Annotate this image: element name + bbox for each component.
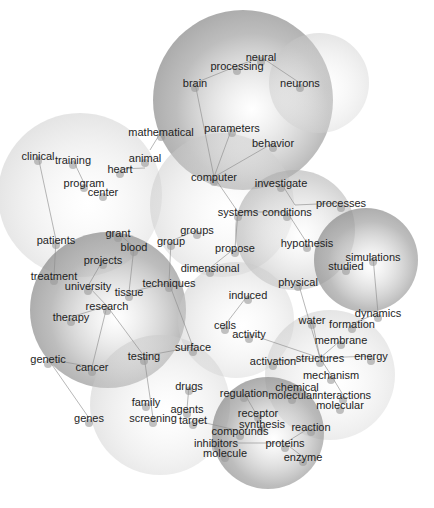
term-label-grant: grant <box>105 228 130 239</box>
term-label-group: group <box>157 236 185 247</box>
term-label-drugs: drugs <box>175 381 203 392</box>
term-label-computer: computer <box>191 172 237 183</box>
term-label-university: university <box>65 281 111 292</box>
term-label-activation: activation <box>250 356 296 367</box>
term-label-neural: neural <box>246 52 277 63</box>
term-label-physical: physical <box>278 277 318 288</box>
term-label-investigate: investigate <box>255 178 308 189</box>
term-label-patients: patients <box>37 235 76 246</box>
term-label-systems: systems <box>218 207 258 218</box>
term-label-neurons: neurons <box>280 78 320 89</box>
term-label-hypothesis: hypothesis <box>281 238 334 249</box>
term-label-training: training <box>55 155 91 166</box>
term-label-mathematical: mathematical <box>128 127 193 138</box>
term-label-cancer: cancer <box>75 362 108 373</box>
term-label-compounds: compounds <box>212 426 269 437</box>
term-label-target: target <box>179 415 207 426</box>
term-label-formation: formation <box>329 319 375 330</box>
term-label-processes: processes <box>316 198 366 209</box>
term-label-genes: genes <box>74 413 104 424</box>
term-label-groups: groups <box>180 225 214 236</box>
term-label-parameters: parameters <box>204 123 260 134</box>
term-label-enzyme: enzyme <box>284 452 323 463</box>
term-label-structures: structures <box>296 353 344 364</box>
term-label-behavior: behavior <box>252 138 294 149</box>
term-label-heart: heart <box>107 164 132 175</box>
term-label-techniques: techniques <box>142 278 195 289</box>
term-label-blood: blood <box>121 242 148 253</box>
term-label-family: family <box>132 397 161 408</box>
term-label-center: center <box>88 187 119 198</box>
term-label-projects: projects <box>84 255 123 266</box>
term-label-research: research <box>86 301 129 312</box>
term-label-conditions: conditions <box>262 207 312 218</box>
term-label-molecular: molecular <box>316 400 364 411</box>
term-label-propose: propose <box>215 243 255 254</box>
term-label-energy: energy <box>354 351 388 362</box>
term-label-tissue: tissue <box>115 287 144 298</box>
term-label-molecule: molecule <box>203 448 247 459</box>
term-label-clinical: clinical <box>21 151 54 162</box>
term-label-water: water <box>299 315 326 326</box>
term-label-regulation: regulation <box>220 388 268 399</box>
term-label-membrane: membrane <box>315 335 368 346</box>
term-label-mechanism: mechanism <box>303 370 359 381</box>
term-label-testing: testing <box>128 351 160 362</box>
term-label-studied: studied <box>328 261 363 272</box>
term-label-molecular: molecular <box>268 390 316 401</box>
term-label-induced: induced <box>229 290 268 301</box>
term-label-genetic: genetic <box>30 354 65 365</box>
term-label-proteins: proteins <box>265 438 304 449</box>
term-label-therapy: therapy <box>53 312 90 323</box>
term-label-reaction: reaction <box>291 422 330 433</box>
term-label-animal: animal <box>129 153 161 164</box>
term-label-screening: screening <box>129 413 177 424</box>
cluster-circles <box>0 10 418 489</box>
term-label-activity: activity <box>232 329 266 340</box>
term-label-brain: brain <box>183 78 207 89</box>
term-label-dimensional: dimensional <box>181 263 240 274</box>
term-label-surface: surface <box>175 342 211 353</box>
